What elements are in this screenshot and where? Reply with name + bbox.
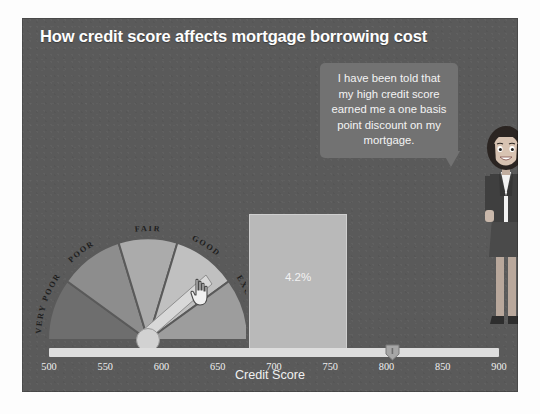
chart-panel: How credit score affects mortgage borrow… xyxy=(22,18,518,392)
credit-score-gauge[interactable]: VERY POOR POOR FAIR GOOD EXCELLENT xyxy=(26,226,246,350)
screenshot-canvas: How credit score affects mortgage borrow… xyxy=(0,0,540,414)
speech-bubble-line: mortgage. xyxy=(329,133,449,149)
presenter-character xyxy=(474,122,518,342)
page-title: How credit score affects mortgage borrow… xyxy=(40,27,427,46)
hand-cursor-icon xyxy=(189,278,211,306)
gauge-label-fair: FAIR xyxy=(134,226,161,234)
gauge-hub xyxy=(137,329,160,351)
credit-score-slider-track[interactable] xyxy=(49,348,499,357)
speech-bubble-line: point discount on my xyxy=(329,118,449,134)
axis-title: Credit Score xyxy=(22,368,518,382)
speech-bubble-tail xyxy=(442,151,460,167)
bar-value-label: 4.2% xyxy=(250,271,346,283)
credit-score-slider-handle[interactable] xyxy=(385,344,400,361)
speech-bubble: I have been told that my high credit sco… xyxy=(320,63,458,158)
mortgage-rate-bar: 4.2% xyxy=(249,214,347,350)
speech-bubble-line: earned me a one basis xyxy=(329,102,449,118)
speech-bubble-line: my high credit score xyxy=(329,87,449,103)
speech-bubble-line: I have been told that xyxy=(329,71,449,87)
